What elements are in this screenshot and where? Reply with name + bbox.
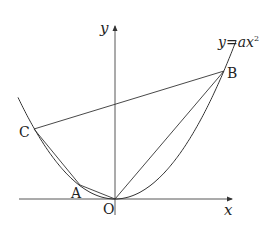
parabola-curve (18, 41, 236, 199)
point-a-label: A (70, 185, 82, 201)
segment-ao (80, 185, 115, 199)
eq-a: a (238, 34, 246, 50)
segment-cb (34, 71, 224, 129)
segment-ob (115, 71, 224, 199)
point-c-label: C (19, 124, 30, 140)
curve-equation-label: y=ax2 (217, 34, 259, 50)
segment-ca (34, 129, 80, 185)
eq-equals: = (226, 34, 238, 50)
x-axis-label: x (224, 201, 233, 219)
eq-x: x (246, 34, 254, 50)
diagram-canvas: y x O A B C y=ax2 (0, 0, 277, 226)
parabola-diagram: y x O A B C y=ax2 (0, 0, 277, 226)
eq-exponent: 2 (254, 34, 259, 43)
point-b-label: B (227, 65, 237, 81)
origin-label: O (103, 201, 114, 217)
y-axis-label: y (99, 19, 109, 37)
